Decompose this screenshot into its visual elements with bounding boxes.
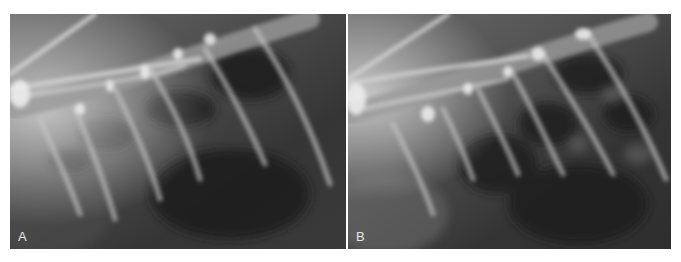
radiograph-image-a — [10, 14, 346, 249]
radiograph-panel-b: B — [348, 14, 671, 249]
panel-label-b: B — [356, 230, 365, 243]
panel-label-a: A — [18, 230, 27, 243]
radiograph-panel-a: A — [10, 14, 346, 249]
radiograph-image-b — [348, 14, 671, 249]
